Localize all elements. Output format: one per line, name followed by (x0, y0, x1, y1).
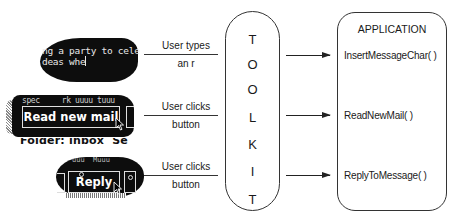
arrow-right-icon (286, 115, 330, 116)
callback-reply-to-message: ReplyToMessage( ) (344, 170, 427, 181)
arrow-right-icon (286, 175, 330, 176)
adjacent-button-edge (126, 106, 134, 128)
event-line-2 (144, 115, 218, 116)
mouse-pointer-icon (113, 181, 123, 195)
event-line-3 (144, 175, 218, 176)
read-new-mail-button[interactable]: Read new mail (22, 106, 120, 128)
toolkit-letter: I (226, 164, 279, 179)
event-label-1: User types (146, 40, 226, 51)
read-new-mail-label: Read new mail (24, 110, 119, 124)
snippet-top-text: uuu Muuu (72, 156, 110, 164)
reply-label: Reply (76, 175, 112, 189)
snippet-top-text: spec rk uuuu tuuu (22, 96, 115, 105)
adjacent-button-edge (57, 173, 65, 193)
event-detail-3: button (146, 179, 226, 190)
toolkit-letter: L (226, 110, 279, 125)
event-detail-2: button (146, 119, 226, 130)
arrow-right-icon (286, 55, 330, 56)
event-line-1 (144, 54, 218, 55)
toolkit-letter: K (226, 137, 279, 152)
text-caret-icon (85, 56, 86, 66)
toolkit-letter: O (226, 82, 279, 97)
toolkit-letter: T (226, 32, 279, 47)
event-label-2: User clicks (146, 101, 226, 112)
event-detail-1: an r (146, 58, 226, 69)
application-title: APPLICATION (338, 23, 446, 35)
event-label-3: User clicks (146, 161, 226, 172)
pin-dot-icon (128, 175, 133, 180)
callback-read-new-mail: ReadNewMail( ) (344, 110, 413, 121)
pin-dot-icon (79, 172, 84, 177)
callback-insert-message-char: InsertMessageChar( ) (344, 50, 437, 61)
toolkit-letter: O (226, 57, 279, 72)
toolkit-letter: T (226, 192, 279, 207)
application-box: APPLICATION InsertMessageChar( ) ReadNew… (337, 12, 447, 211)
text-field-content: ng a party to cele deas whe (42, 45, 140, 67)
mouse-pointer-icon (115, 117, 125, 131)
toolkit-box: T O O L K I T (225, 11, 280, 211)
